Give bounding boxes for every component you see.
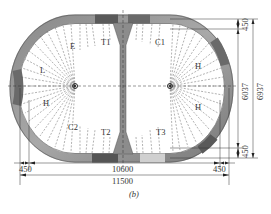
label-t1: T1 bbox=[101, 37, 110, 47]
lining-dark-patch bbox=[17, 70, 19, 105]
label-h-left: H bbox=[43, 98, 49, 108]
label-l: L bbox=[40, 65, 45, 75]
dim-bottom-right-offset: 450 bbox=[213, 164, 226, 174]
dim-right-bottom-offset: 450 bbox=[240, 145, 250, 158]
label-t2: T2 bbox=[101, 127, 110, 137]
figure-caption: (b) bbox=[129, 189, 139, 199]
center-column bbox=[113, 10, 133, 168]
label-e: E bbox=[70, 41, 75, 51]
left-fan-center-dot bbox=[74, 85, 76, 87]
dim-overall-height: 6937 bbox=[255, 83, 265, 100]
label-h-right-bottom: H bbox=[195, 102, 201, 112]
tunnel-cross-section-diagram: E T1 C1 L H H C2 T2 T3 H 450 6037 6937 4… bbox=[0, 0, 271, 214]
dim-right-top-offset: 450 bbox=[240, 18, 250, 31]
dim-inner-height: 6037 bbox=[240, 83, 250, 100]
dim-bottom-left-offset: 450 bbox=[19, 164, 32, 174]
label-c1: C1 bbox=[155, 37, 165, 47]
label-h-right-top: H bbox=[195, 61, 201, 71]
right-fan-center-dot bbox=[169, 85, 171, 87]
dim-inner-width: 10600 bbox=[112, 164, 133, 174]
label-t3: T3 bbox=[156, 127, 165, 137]
dim-overall-width: 11500 bbox=[112, 176, 133, 186]
label-c2: C2 bbox=[68, 122, 78, 132]
